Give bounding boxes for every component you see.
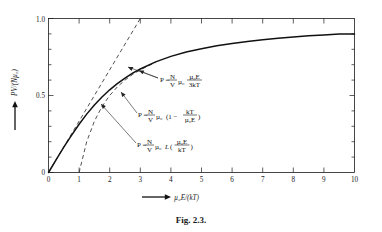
y-axis-arrow (12, 101, 18, 130)
langevin-plot: 0 0.5 1.0 0 1 2 3 (0, 0, 382, 232)
formula-2-num: N (148, 108, 153, 116)
formula-2-mu: µ₀ (156, 113, 163, 121)
formula-1-den: V (170, 81, 175, 89)
x-tick-label-1: 1 (77, 176, 81, 184)
x-tick-label-6: 6 (230, 176, 234, 184)
x-axis-arrow (142, 194, 171, 200)
formula-3-lhs: P = (137, 141, 146, 149)
x-tick-label-0: 0 (47, 176, 51, 184)
plot-frame (49, 19, 355, 173)
formula-3-tail-den: kT (178, 146, 187, 154)
formula-1-tail-num: µ₀E (189, 73, 200, 81)
formula-3-num: N (147, 138, 152, 146)
figure-container: 0 0.5 1.0 0 1 2 3 (0, 0, 382, 232)
formula-1-num: N (170, 73, 175, 81)
x-tick-label-8: 8 (292, 176, 296, 184)
y-axis-major-ticks (49, 19, 54, 173)
leader-langevin-full (101, 104, 136, 143)
x-axis-top-ticks (79, 19, 324, 24)
formula-3-paren-open: ( (170, 143, 173, 151)
y-axis-title-group: PV/(Nµ₀) (11, 68, 19, 130)
y-tick-label-0-5: 0.5 (36, 92, 45, 100)
series-langevin (49, 34, 355, 173)
formula-3-tail-num: µ₀E (177, 138, 188, 146)
x-axis-ticks (79, 168, 324, 173)
formula-3-den: V (147, 146, 152, 154)
annotation-langevin-full: P = N V µ₀ L ( µ₀E kT ) (137, 138, 194, 155)
formula-3-mu: µ₀ (155, 143, 162, 151)
annotation-high-temp-limit: P = N V µ₀ µ₀E 3kT (160, 73, 202, 90)
x-tick-label-4: 4 (169, 176, 173, 184)
x-tick-label-2: 2 (108, 176, 112, 184)
y-tick-label-1-0: 1.0 (36, 16, 45, 24)
x-axis-title-group: µ₀E/(kT) (142, 194, 200, 202)
y-axis-label: PV/(Nµ₀) (11, 68, 19, 97)
figure-caption: Fig. 2.3. (176, 215, 207, 225)
annotation-saturation-limit: P = N V µ₀ (1 − kT µ₀E ) (138, 108, 201, 125)
y-tick-label-0: 0 (41, 169, 45, 177)
formula-1-lhs: P = (160, 76, 169, 84)
formula-2-tail-den: µ₀E (185, 116, 196, 124)
x-tick-label-9: 9 (322, 176, 326, 184)
right-axis-ticks (350, 34, 355, 157)
formula-2-lhs: P = (138, 111, 147, 119)
leader-saturation-limit (121, 92, 137, 113)
formula-1-tail-den: 3kT (189, 81, 201, 89)
formula-2-paren-close: ) (198, 113, 201, 121)
formula-2-paren-open: (1 − (166, 113, 178, 121)
formula-3-paren-close: ) (191, 143, 194, 151)
x-tick-label-3: 3 (139, 176, 143, 184)
x-tick-label-10: 10 (351, 176, 359, 184)
formula-3-func: L (164, 143, 169, 151)
x-tick-label-5: 5 (200, 176, 204, 184)
x-tick-label-7: 7 (261, 176, 265, 184)
formula-1-mu: µ₀ (178, 78, 185, 86)
formula-2-den: V (148, 116, 153, 124)
formula-2-tail-num: kT (186, 108, 195, 116)
x-axis-label: µ₀E/(kT) (174, 194, 200, 202)
